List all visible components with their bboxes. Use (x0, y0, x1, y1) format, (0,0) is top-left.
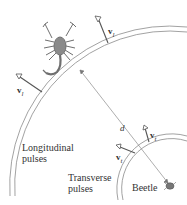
longitudinal-pulses-label: Longitudinal pulses (22, 142, 74, 164)
velocity-arrow-transverse-top (143, 125, 149, 142)
v-l-label-left: vl (17, 85, 23, 100)
scorpion-beetle-diagram: vl vl vt vt d Longitudinal pulses Transv… (0, 0, 187, 205)
v-t-label-top: vt (150, 130, 156, 145)
longitudinal-wavefront (10, 26, 187, 196)
v-l-label-top: vl (108, 26, 114, 41)
beetle-label: Beetle (132, 182, 158, 193)
distance-label: d (120, 123, 125, 134)
velocity-arrow-longitudinal-top (95, 16, 108, 43)
v-t-label-left: vt (116, 152, 122, 167)
beetle-icon (164, 182, 176, 190)
transverse-pulses-label: Transverse pulses (68, 172, 112, 194)
